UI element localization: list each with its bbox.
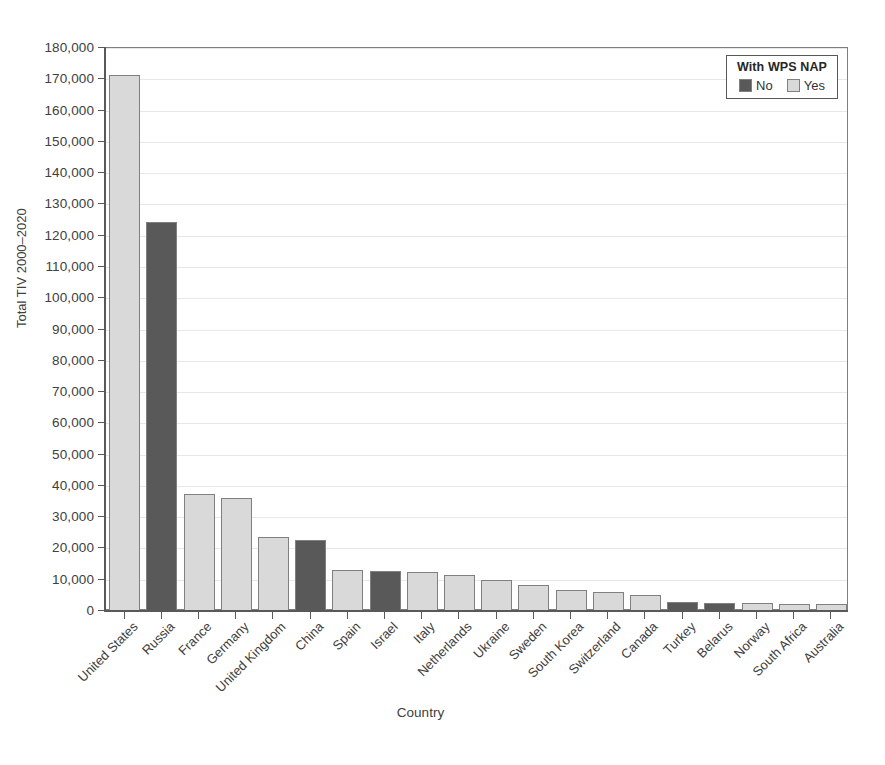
y-axis-ticks: 010,00020,00030,00040,00050,00060,00070,… (0, 0, 104, 765)
gridline (105, 548, 847, 549)
y-tick-label: 80,000 (52, 352, 94, 367)
bar[interactable] (518, 585, 549, 611)
y-tick-mark (98, 110, 104, 111)
y-axis-line (104, 47, 106, 611)
bar[interactable] (295, 540, 326, 611)
bar[interactable] (370, 571, 401, 611)
y-tick-mark (98, 297, 104, 298)
x-tick-mark (719, 612, 720, 619)
x-tick-mark (458, 612, 459, 619)
gridline (105, 267, 847, 268)
gridline (105, 392, 847, 393)
gridline (105, 580, 847, 581)
x-tick-mark (644, 612, 645, 619)
bar[interactable] (109, 75, 140, 611)
bar[interactable] (481, 580, 512, 611)
x-tick-mark (310, 612, 311, 619)
y-tick-mark (98, 391, 104, 392)
x-tick-mark (235, 612, 236, 619)
x-tick-mark (682, 612, 683, 619)
legend-items: NoYes (733, 78, 831, 93)
x-tick-mark (347, 612, 348, 619)
y-axis-title: Total TIV 2000–2020 (14, 208, 29, 328)
y-tick-label: 130,000 (45, 196, 95, 211)
x-tick-mark (272, 612, 273, 619)
bar[interactable] (258, 537, 289, 611)
gridline (105, 423, 847, 424)
x-tick-mark (756, 612, 757, 619)
y-tick-mark (98, 203, 104, 204)
legend-swatch-icon (787, 79, 800, 92)
legend-item[interactable]: No (739, 78, 773, 93)
gridline (105, 361, 847, 362)
bar[interactable] (146, 222, 177, 611)
legend-label: No (756, 78, 773, 93)
gridlines (105, 48, 847, 609)
x-tick-mark (570, 612, 571, 619)
gridline (105, 204, 847, 205)
bar[interactable] (184, 494, 215, 611)
legend-title: With WPS NAP (733, 60, 831, 74)
x-axis-title: Country (0, 705, 885, 720)
y-tick-mark (98, 360, 104, 361)
bar[interactable] (593, 592, 624, 611)
gridline (105, 236, 847, 237)
y-tick-mark (98, 172, 104, 173)
legend: With WPS NAP NoYes (726, 55, 838, 99)
gridline (105, 298, 847, 299)
x-tick-mark (198, 612, 199, 619)
x-axis-title-text: Country (397, 705, 444, 720)
y-tick-mark (98, 78, 104, 79)
y-tick-label: 60,000 (52, 415, 94, 430)
bar[interactable] (630, 595, 661, 611)
gridline (105, 517, 847, 518)
x-tick-mark (384, 612, 385, 619)
y-tick-label: 10,000 (52, 571, 94, 586)
y-tick-mark (98, 235, 104, 236)
y-tick-label: 50,000 (52, 446, 94, 461)
y-tick-mark (98, 266, 104, 267)
y-tick-label: 140,000 (45, 165, 95, 180)
x-tick-mark (161, 612, 162, 619)
y-tick-mark (98, 454, 104, 455)
bar[interactable] (221, 498, 252, 611)
bar[interactable] (407, 572, 438, 611)
x-tick-mark (421, 612, 422, 619)
y-tick-label: 20,000 (52, 540, 94, 555)
legend-swatch-icon (739, 79, 752, 92)
bar[interactable] (332, 570, 363, 611)
gridline (105, 48, 847, 49)
y-tick-mark (98, 516, 104, 517)
y-tick-label: 70,000 (52, 384, 94, 399)
y-tick-mark (98, 422, 104, 423)
y-tick-mark (98, 547, 104, 548)
y-tick-mark (98, 579, 104, 580)
y-tick-label: 170,000 (45, 71, 95, 86)
y-tick-mark (98, 329, 104, 330)
gridline (105, 142, 847, 143)
y-tick-mark (98, 47, 104, 48)
gridline (105, 486, 847, 487)
bar-chart-figure: 010,00020,00030,00040,00050,00060,00070,… (0, 0, 885, 765)
legend-item[interactable]: Yes (787, 78, 825, 93)
y-tick-label: 90,000 (52, 321, 94, 336)
bar[interactable] (444, 575, 475, 611)
y-tick-label: 120,000 (45, 227, 95, 242)
x-tick-mark (533, 612, 534, 619)
y-tick-label: 180,000 (45, 40, 95, 55)
plot-area (104, 47, 848, 610)
y-tick-label: 40,000 (52, 477, 94, 492)
bar[interactable] (556, 590, 587, 611)
y-tick-label: 100,000 (45, 290, 95, 305)
y-tick-mark (98, 141, 104, 142)
y-tick-label: 160,000 (45, 102, 95, 117)
legend-label: Yes (804, 78, 825, 93)
y-tick-label: 150,000 (45, 133, 95, 148)
gridline (105, 173, 847, 174)
x-tick-mark (496, 612, 497, 619)
x-axis-line (104, 610, 848, 612)
gridline (105, 330, 847, 331)
x-tick-mark (830, 612, 831, 619)
y-tick-label: 30,000 (52, 509, 94, 524)
y-tick-label: 110,000 (46, 258, 95, 273)
